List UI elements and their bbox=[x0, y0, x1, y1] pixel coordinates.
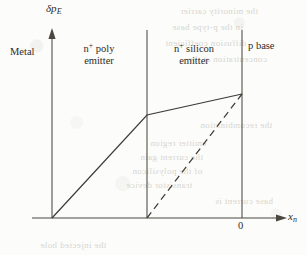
region-label-silicon-emitter-line2: emitter bbox=[157, 55, 231, 67]
curve-ideal-emitter-profile bbox=[147, 94, 242, 218]
region-label-metal-text: Metal bbox=[10, 46, 35, 57]
region-label-silicon-emitter-word: silicon bbox=[183, 43, 214, 54]
region-label-silicon-emitter: n+ silicon emitter bbox=[157, 40, 231, 66]
y-axis-label-main: δp bbox=[46, 2, 57, 14]
y-axis-label-subscript: E bbox=[57, 7, 62, 16]
region-label-metal: Metal bbox=[10, 46, 35, 57]
x-axis-arrow-icon bbox=[276, 215, 287, 222]
y-axis-arrow-icon bbox=[48, 28, 55, 39]
plot-canvas bbox=[0, 0, 307, 255]
y-axis-label: δpE bbox=[46, 2, 62, 16]
region-label-p-base: p base bbox=[248, 40, 275, 52]
region-label-poly-emitter-line1: n+ poly bbox=[67, 40, 131, 55]
region-label-silicon-emitter-line1: n+ silicon bbox=[157, 40, 231, 55]
region-label-poly-emitter: n+ poly emitter bbox=[67, 40, 131, 66]
x-axis-tick-label-zero: 0 bbox=[238, 220, 243, 231]
region-label-poly-emitter-word: poly bbox=[93, 43, 114, 54]
x-axis-label-subscript: n bbox=[293, 215, 297, 224]
region-label-poly-emitter-line2: emitter bbox=[67, 55, 131, 67]
figure-root: the minority carrier in the p-type base … bbox=[0, 0, 307, 255]
x-axis-label: xn bbox=[288, 210, 297, 224]
